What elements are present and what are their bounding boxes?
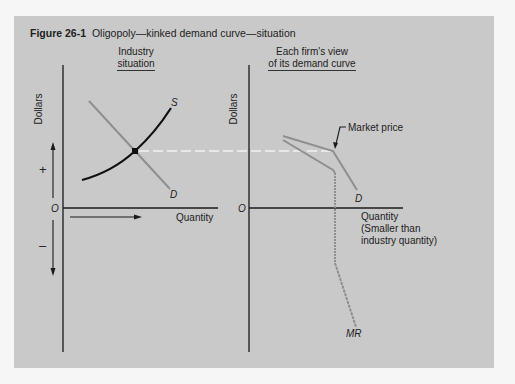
plus-sign: + bbox=[39, 164, 47, 176]
market-price-pointer bbox=[336, 127, 346, 144]
firm-marginal-revenue-line bbox=[283, 140, 335, 173]
right-origin-label: O bbox=[238, 203, 246, 215]
left-panel-title-line2-wrap: situation bbox=[96, 58, 176, 70]
left-origin-label: O bbox=[51, 203, 59, 215]
right-y-axis-label: Dollars bbox=[228, 84, 240, 134]
left-panel-title-line2: situation bbox=[117, 58, 154, 71]
right-panel-title-line1: Each firm's view bbox=[262, 46, 362, 58]
mr-lower-segment bbox=[335, 263, 356, 327]
right-demand-label: D bbox=[355, 193, 362, 205]
market-price-pointer-head bbox=[333, 142, 338, 149]
left-panel-title-line1: Industry bbox=[96, 46, 176, 58]
right-x-axis-label-line2: (Smaller than bbox=[361, 223, 420, 235]
market-price-label: Market price bbox=[348, 122, 403, 134]
up-arrow-head bbox=[51, 142, 56, 150]
right-arrow-head bbox=[134, 215, 142, 220]
right-x-axis-label-line3: industry quantity) bbox=[361, 235, 437, 247]
left-y-axis-label: Dollars bbox=[33, 84, 45, 134]
mr-label: MR bbox=[346, 328, 362, 340]
industry-demand-line bbox=[89, 101, 170, 189]
equilibrium-point bbox=[132, 148, 138, 154]
kinked-demand-diagram bbox=[0, 0, 515, 384]
right-panel-title-line2: of its demand curve bbox=[268, 58, 355, 71]
left-x-axis-label: Quantity bbox=[176, 212, 213, 224]
left-demand-label: D bbox=[170, 189, 177, 201]
supply-label: S bbox=[171, 97, 178, 109]
right-x-axis-label-line1: Quantity bbox=[361, 211, 398, 223]
down-arrow-head bbox=[51, 268, 56, 276]
minus-sign: – bbox=[39, 240, 46, 252]
right-panel-title-line2-wrap: of its demand curve bbox=[262, 58, 362, 70]
industry-supply-curve bbox=[82, 108, 171, 180]
